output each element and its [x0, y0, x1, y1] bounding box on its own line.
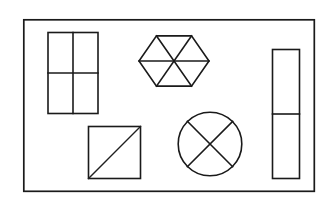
shape-rectangle-quartered: [48, 33, 98, 114]
shape-rectangle-halved-vertical: [273, 50, 300, 179]
shape-square-halved-diagonal: [89, 127, 141, 179]
shape-circle-quartered: [178, 112, 242, 176]
shapes-figure: [0, 0, 334, 205]
diagram-canvas: Partitioned shapes worksheet Five outlin…: [0, 0, 334, 205]
